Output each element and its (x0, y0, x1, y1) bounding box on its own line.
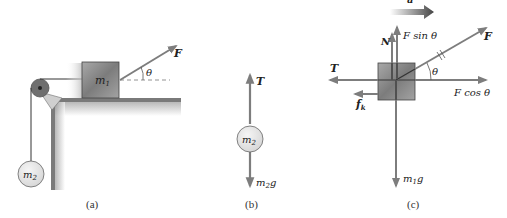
weight-m1g-label: m1g (403, 173, 423, 186)
force-Fcos-label: F cos θ (453, 87, 490, 98)
motion-blur (66, 63, 82, 98)
panel-c: a T fk F cos θ N F sin θ m1g F (330, 0, 493, 211)
panel-a: m1 F θ m2 (a) (18, 46, 183, 211)
caption-c: (c) (407, 198, 420, 211)
acceleration-arrow (390, 5, 434, 19)
force-F-label: F (483, 30, 493, 43)
weight-m2g-label: m2g (256, 177, 276, 190)
normal-N-label: N (380, 36, 391, 47)
panel-b: T m2 m2g (b) (237, 75, 276, 211)
force-Fsin-label: F sin θ (402, 30, 437, 41)
table-top (51, 98, 181, 102)
physics-diagram: m1 F θ m2 (a) T m2 m2g (b) a T fk (0, 0, 507, 218)
tension-T-label: T (256, 75, 265, 88)
angle-theta-label: θ (146, 67, 152, 78)
table-wall (51, 98, 55, 190)
caption-a: (a) (86, 198, 99, 211)
angle-arc (427, 63, 431, 80)
wall-shading (55, 102, 65, 190)
force-F-label: F (173, 47, 183, 60)
angle-arc (141, 67, 143, 80)
caption-b: (b) (245, 198, 258, 211)
acceleration-label: a (407, 0, 413, 5)
angle-theta-label: θ (432, 66, 438, 77)
pulley-axle (38, 86, 42, 90)
friction-fk-label: fk (355, 98, 366, 112)
tension-T-label: T (330, 62, 339, 75)
table-shading (55, 102, 181, 116)
